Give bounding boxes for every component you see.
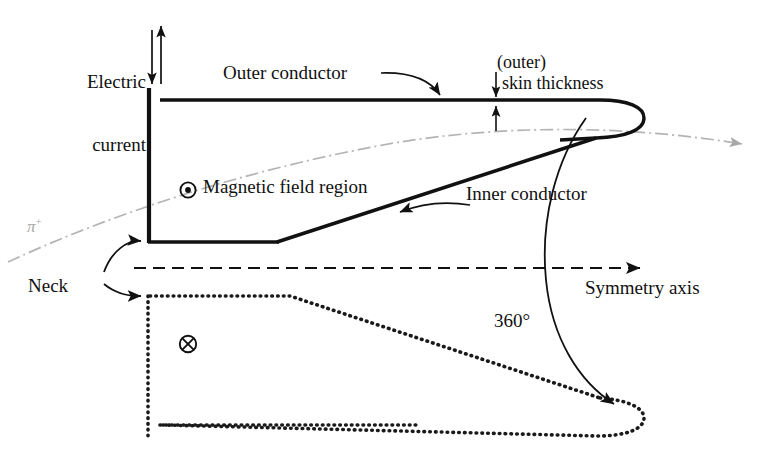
electric-current-label: Electric current xyxy=(74,28,146,198)
electric-current-line1: Electric xyxy=(74,71,146,92)
outer-conductor-leader xyxy=(381,73,440,95)
symmetry-axis-label: Symmetry axis xyxy=(585,277,700,298)
rotation-angle-label: 360° xyxy=(494,310,530,331)
inner-conductor-label: Inner conductor xyxy=(466,183,587,204)
outer-conductor-outline xyxy=(148,88,644,243)
diagram-canvas: Electric current Outer conductor (outer)… xyxy=(0,0,781,461)
circle-cross-icon xyxy=(180,336,196,352)
skin-thickness-qualifier: (outer) xyxy=(497,52,546,72)
rotation-sweep-arrow xyxy=(545,118,614,404)
electric-current-arrows xyxy=(152,26,161,84)
neck-label: Neck xyxy=(28,275,68,296)
pion-label: π+ xyxy=(27,215,42,236)
pion-charge: + xyxy=(36,215,42,227)
circle-dot-icon xyxy=(180,182,195,197)
pion-symbol: π xyxy=(27,217,36,236)
inner-conductor-leader xyxy=(400,203,470,212)
outer-conductor-label: Outer conductor xyxy=(223,62,347,83)
skin-thickness-label: skin thickness xyxy=(502,73,604,93)
magnetic-field-region-label: Magnetic field region xyxy=(203,176,368,197)
electric-current-line2: current xyxy=(74,134,146,155)
mirrored-conductor-outline xyxy=(148,296,644,440)
